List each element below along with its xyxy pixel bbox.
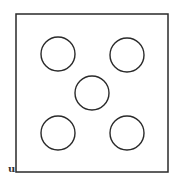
dice-diagram: [0, 0, 178, 185]
circle-center: [75, 76, 109, 110]
circle-top-right: [110, 38, 144, 72]
circle-group: [41, 37, 144, 150]
outer-square: [16, 14, 168, 172]
corner-label: u: [8, 163, 15, 175]
circle-top-left: [41, 37, 75, 71]
circle-bottom-right: [110, 116, 144, 150]
circle-bottom-left: [41, 116, 75, 150]
